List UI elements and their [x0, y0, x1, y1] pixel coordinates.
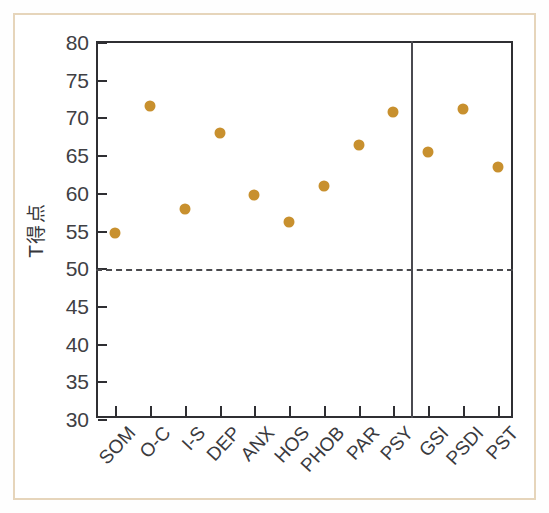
y-tick-label-30: 30 [66, 408, 89, 432]
plot-inner: 8075706560555045403530 [98, 43, 511, 416]
y-tick-label-75: 75 [66, 69, 89, 93]
figure-container: T得点 8075706560555045403530 SOMO-CI-SDEPA… [0, 0, 549, 513]
y-tick-mark-30 [98, 419, 107, 421]
y-tick-label-55: 55 [66, 220, 89, 244]
y-tick-mark-45 [98, 306, 107, 308]
data-point-psdi[interactable] [457, 104, 468, 115]
y-tick-mark-80 [98, 42, 107, 44]
y-tick-mark-70 [98, 117, 107, 119]
data-point-pst[interactable] [492, 162, 503, 173]
x-tick-mark-par [359, 406, 361, 416]
y-tick-label-65: 65 [66, 144, 89, 168]
x-tick-mark-gsi [428, 406, 430, 416]
y-tick-label-35: 35 [66, 370, 89, 394]
data-point-psy[interactable] [388, 106, 399, 117]
x-tick-mark-psdi [463, 406, 465, 416]
data-point-som[interactable] [110, 228, 121, 239]
plot-area: 8075706560555045403530 [96, 41, 513, 418]
y-tick-label-80: 80 [66, 31, 89, 55]
data-point-anx[interactable] [249, 189, 260, 200]
x-tick-mark-o-c [150, 406, 152, 416]
y-tick-label-60: 60 [66, 182, 89, 206]
data-point-o-c[interactable] [145, 100, 156, 111]
y-tick-mark-60 [98, 193, 107, 195]
y-tick-label-50: 50 [66, 257, 89, 281]
y-tick-label-40: 40 [66, 333, 89, 357]
y-tick-mark-55 [98, 231, 107, 233]
data-point-gsi[interactable] [423, 147, 434, 158]
group-separator-line [411, 41, 413, 418]
data-point-i-s[interactable] [179, 203, 190, 214]
y-tick-mark-75 [98, 80, 107, 82]
x-tick-mark-anx [254, 406, 256, 416]
data-point-par[interactable] [353, 139, 364, 150]
x-tick-mark-hos [289, 406, 291, 416]
y-tick-label-70: 70 [66, 106, 89, 130]
x-tick-mark-pst [498, 406, 500, 416]
data-point-phob[interactable] [318, 180, 329, 191]
y-axis-title: T得点 [22, 41, 48, 418]
data-point-hos[interactable] [284, 217, 295, 228]
x-tick-mark-i-s [185, 406, 187, 416]
y-tick-mark-35 [98, 381, 107, 383]
x-tick-mark-dep [220, 406, 222, 416]
y-axis-title-label: T得点 [22, 202, 49, 258]
reference-line-50 [96, 269, 513, 271]
y-tick-label-45: 45 [66, 295, 89, 319]
x-tick-mark-som [115, 406, 117, 416]
y-tick-mark-65 [98, 155, 107, 157]
data-point-dep[interactable] [214, 127, 225, 138]
y-tick-mark-40 [98, 344, 107, 346]
x-tick-mark-phob [324, 406, 326, 416]
x-tick-mark-psy [393, 406, 395, 416]
